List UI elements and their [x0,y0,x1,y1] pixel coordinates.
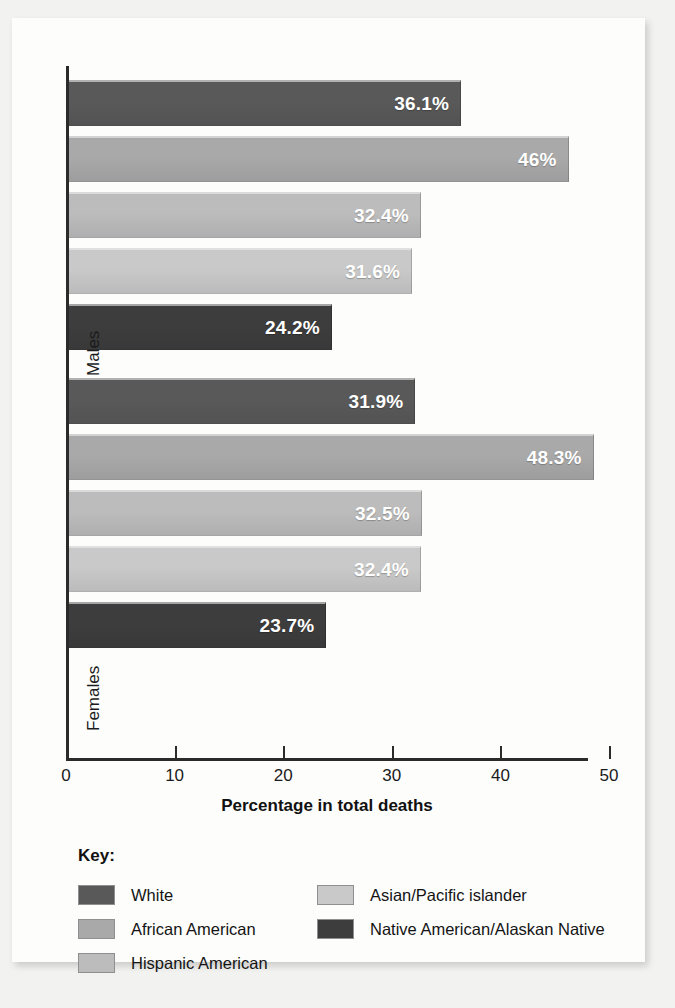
x-axis-tick-label: 10 [165,766,184,786]
legend-item: Native American/Alaskan Native [317,912,605,946]
legend-column-left: WhiteAfrican AmericanHispanic American [78,878,268,980]
bar-females-1: 48.3% [69,434,594,480]
bar-males-4: 24.2% [69,304,332,350]
bar-value-label: 23.7% [260,615,326,637]
legend-columns: WhiteAfrican AmericanHispanic American A… [78,878,618,982]
legend-item: Hispanic American [78,946,268,980]
legend-swatch-icon [78,885,115,905]
bar-females-0: 31.9% [69,378,415,424]
x-axis-tick [500,746,502,759]
page-background: 01020304050 36.1%46%32.4%31.6%24.2%31.9%… [0,0,675,1008]
legend-item-label: African American [131,920,256,939]
bar-value-label: 32.4% [354,559,420,581]
x-axis-line [66,758,588,761]
legend-item-label: Native American/Alaskan Native [370,920,605,939]
bar-value-label: 46% [518,149,568,171]
x-axis-tick-label: 20 [274,766,293,786]
legend: Key: WhiteAfrican AmericanHispanic Ameri… [78,846,618,982]
legend-swatch-icon [78,953,115,973]
x-axis-tick-label: 0 [61,766,70,786]
x-axis-tick-label: 30 [382,766,401,786]
bar-males-3: 31.6% [69,248,412,294]
x-axis-tick-label: 40 [491,766,510,786]
legend-item: White [78,878,268,912]
legend-title: Key: [78,846,618,866]
bar-value-label: 32.5% [355,503,421,525]
x-axis-tick-label: 50 [600,766,619,786]
legend-item: Asian/Pacific islander [317,878,605,912]
bar-males-1: 46% [69,136,569,182]
x-axis-tick [175,746,177,759]
bar-value-label: 48.3% [527,447,593,469]
x-axis-title: Percentage in total deaths [66,796,588,816]
group-label-males: Males [84,331,104,376]
bar-chart-plot-area: 01020304050 36.1%46%32.4%31.6%24.2%31.9%… [66,66,626,766]
legend-swatch-icon [78,919,115,939]
legend-item-label: White [131,886,173,905]
legend-swatch-icon [317,885,354,905]
legend-item-label: Asian/Pacific islander [370,886,527,905]
bar-females-3: 32.4% [69,546,421,592]
figure-card: 01020304050 36.1%46%32.4%31.6%24.2%31.9%… [12,18,645,962]
x-axis-tick [283,746,285,759]
bar-value-label: 36.1% [394,93,460,115]
bar-males-2: 32.4% [69,192,421,238]
bar-females-4: 23.7% [69,602,326,648]
group-label-females: Females [84,666,104,731]
bar-value-label: 32.4% [354,205,420,227]
legend-item: African American [78,912,268,946]
legend-item-label: Hispanic American [131,954,268,973]
legend-swatch-icon [317,919,354,939]
bar-value-label: 31.9% [349,391,415,413]
x-axis-tick [609,746,611,759]
bar-males-0: 36.1% [69,80,461,126]
bar-value-label: 24.2% [265,317,331,339]
x-axis-tick [392,746,394,759]
legend-column-right: Asian/Pacific islanderNative American/Al… [317,878,605,946]
bar-females-2: 32.5% [69,490,422,536]
x-axis-tick [66,746,68,759]
bar-value-label: 31.6% [345,261,411,283]
